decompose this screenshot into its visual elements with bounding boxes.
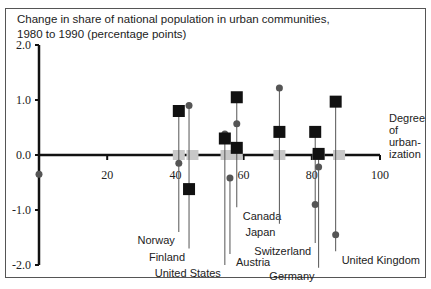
circle-marker [226, 175, 233, 182]
circle-marker [186, 102, 193, 109]
circle-marker [332, 231, 339, 238]
country-label: Canada [243, 210, 282, 222]
square-marker [273, 126, 285, 138]
circle-marker [312, 201, 319, 208]
x-tick-label: 60 [238, 168, 250, 182]
country-label: Austria [236, 256, 271, 268]
x-axis-label: ization [389, 148, 421, 160]
square-marker [231, 142, 243, 154]
country-label: Finland [149, 251, 185, 263]
square-marker [183, 183, 195, 195]
country-label: Switzerland [254, 245, 311, 257]
y-tick-label: -1.0 [12, 203, 31, 217]
square-marker [173, 105, 185, 117]
gray-marker [333, 150, 345, 160]
y-tick-label: 2.0 [16, 38, 31, 52]
gray-marker [221, 150, 233, 160]
x-tick-label: 20 [101, 168, 113, 182]
x-tick-label: 100 [371, 168, 389, 182]
circle-marker [233, 120, 240, 127]
origin-marker [36, 171, 43, 178]
x-tick-label: 80 [306, 168, 318, 182]
chart-plot: 2.01.00.0-1.0-2.020406080100Degreeofurba… [0, 0, 431, 289]
x-axis-label: Degree [389, 112, 425, 124]
country-label: United States [155, 267, 222, 279]
country-label: United Kingdom [342, 254, 420, 266]
square-marker [309, 126, 321, 138]
y-tick-label: 1.0 [16, 93, 31, 107]
x-axis-label: urban- [389, 136, 421, 148]
square-marker [330, 96, 342, 108]
x-tick-label: 40 [169, 168, 181, 182]
gray-marker [186, 150, 198, 160]
y-tick-label: -2.0 [12, 258, 31, 272]
circle-marker [276, 84, 283, 91]
square-marker [219, 133, 231, 145]
x-axis-label: of [389, 124, 399, 136]
square-marker [231, 91, 243, 103]
circle-marker [315, 164, 322, 171]
circle-marker [175, 160, 182, 167]
country-label: Japan [245, 226, 275, 238]
square-marker [313, 148, 325, 160]
country-label: Norway [138, 234, 176, 246]
y-tick-label: 0.0 [16, 148, 31, 162]
country-label: Germany [269, 270, 315, 282]
